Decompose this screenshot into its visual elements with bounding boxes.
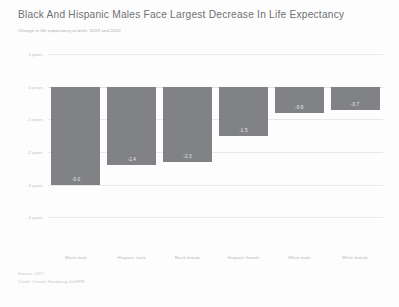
x-axis-tick-label: Hispanic male [104,255,160,260]
y-axis-tick-label: 1 years [29,52,43,57]
y-axis-tick-label: -4 years [27,215,43,220]
chart-page: Black And Hispanic Males Face Largest De… [0,0,399,307]
chart-header: Black And Hispanic Males Face Largest De… [18,8,383,35]
bar[interactable]: -3.0 [51,87,100,185]
bar-value-label: -2.3 [163,154,212,159]
bars-layer: -3.0Black male-2.4Hispanic male-2.3Black… [48,54,383,250]
bar[interactable]: -0.7 [331,87,380,110]
x-axis-tick-label: Black female [160,255,216,260]
bar-group[interactable]: -2.3Black female [160,54,216,250]
plot-area: 1 years0 years-1 years-2 years-3 years-4… [48,54,383,250]
bar-value-label: -0.8 [275,105,324,110]
y-axis-tick-label: -2 years [27,150,43,155]
x-axis-tick-label: White male [271,255,327,260]
bar-group[interactable]: -3.0Black male [48,54,104,250]
y-axis-tick-label: 0 years [29,84,43,89]
bar-value-label: -2.4 [107,157,156,162]
bar[interactable]: -0.8 [275,87,324,113]
credit-note: Credit: Connie Hanzhang Jin/NPR [18,278,85,286]
bar-group[interactable]: -0.8White male [271,54,327,250]
source-note: Source: CDC [18,270,85,278]
chart-footer: Source: CDC Credit: Connie Hanzhang Jin/… [18,270,85,286]
bar-value-label: -3.0 [51,177,100,182]
chart-subtitle: Change in life expectancy at birth, 2019… [18,27,383,35]
bar[interactable]: -2.3 [163,87,212,162]
bar-group[interactable]: -1.5Hispanic female [216,54,272,250]
x-axis-tick-label: Hispanic female [216,255,272,260]
bar[interactable]: -1.5 [219,87,268,136]
x-axis-tick-label: White female [327,255,383,260]
bar-value-label: -0.7 [331,102,380,107]
bar-group[interactable]: -0.7White female [327,54,383,250]
y-axis-tick-label: -1 years [27,117,43,122]
y-axis-tick-label: -3 years [27,182,43,187]
bar-group[interactable]: -2.4Hispanic male [104,54,160,250]
bar-value-label: -1.5 [219,128,268,133]
x-axis-tick-label: Black male [48,255,104,260]
bar[interactable]: -2.4 [107,87,156,165]
page-title: Black And Hispanic Males Face Largest De… [18,8,383,21]
